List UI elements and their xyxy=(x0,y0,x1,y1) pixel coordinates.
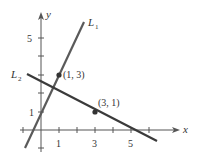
y-axis-label: y xyxy=(45,8,51,20)
point-1-3-label: (1, 3) xyxy=(63,69,85,81)
x-tick-1: 1 xyxy=(56,138,61,149)
L2-subscript: 2 xyxy=(18,75,22,83)
graph: 1 3 5 x 1 5 y L 1 L 2 (1, 3) xyxy=(0,0,199,159)
L1-subscript: 1 xyxy=(95,23,99,31)
L1-label: L xyxy=(87,16,94,28)
y-tick-1: 1 xyxy=(29,107,34,118)
x-axis-label: x xyxy=(182,123,188,135)
line-L1: L 1 xyxy=(25,16,99,148)
point-3-1: (3, 1) xyxy=(92,97,119,115)
x-tick-3: 3 xyxy=(92,138,97,149)
x-tick-5: 5 xyxy=(128,138,133,149)
y-tick-5: 5 xyxy=(27,33,32,44)
x-axis: 1 3 5 x xyxy=(20,123,188,149)
point-3-1-label: (3, 1) xyxy=(98,97,120,109)
L2-label: L xyxy=(10,68,17,80)
